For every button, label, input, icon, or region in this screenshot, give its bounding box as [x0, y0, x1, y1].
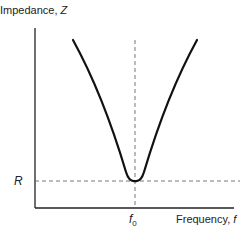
y-axis-label: Impedance, Z — [0, 4, 67, 16]
f0-label: f0 — [129, 212, 137, 228]
x-axis-label: Frequency, f — [176, 213, 236, 225]
impedance-chart — [0, 0, 249, 242]
r-label: R — [14, 174, 23, 188]
